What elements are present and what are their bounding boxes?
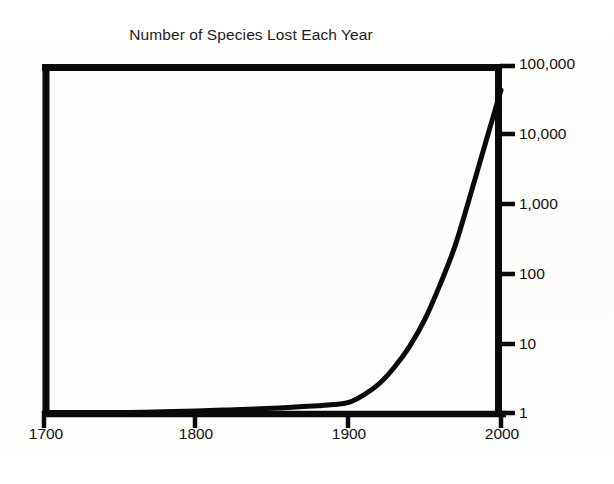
y-axis-label-100000: 100,000 [519, 55, 575, 73]
y-axis-label-100: 100 [519, 265, 545, 283]
axis-frame [42, 64, 506, 414]
y-axis-label-1000: 1,000 [519, 195, 558, 213]
y-axis-label-1: 1 [519, 404, 528, 422]
x-axis-label-1800: 1800 [179, 425, 213, 443]
y-axis-ticks [500, 66, 515, 413]
x-axis-label-1900: 1900 [332, 425, 366, 443]
data-series-line [44, 90, 501, 413]
chart-figure: Number of Species Lost Each Year [0, 0, 614, 484]
x-axis-label-2000: 2000 [485, 425, 519, 443]
x-axis-label-1700: 1700 [29, 425, 63, 443]
y-axis-label-10000: 10,000 [519, 125, 566, 143]
y-axis-label-10: 10 [519, 335, 536, 353]
